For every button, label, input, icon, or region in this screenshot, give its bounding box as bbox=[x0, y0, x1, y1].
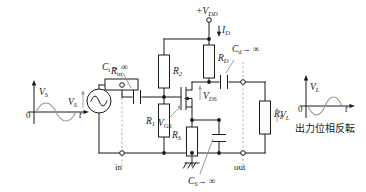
input-plot-origin-label: 0 bbox=[26, 110, 31, 120]
vs-arrowhead bbox=[81, 90, 85, 95]
ground-hatch-2 bbox=[188, 163, 191, 168]
junction-gate bbox=[162, 95, 166, 99]
output-plot-y-label: VL bbox=[310, 82, 320, 93]
junction-bottom-r1 bbox=[162, 151, 166, 155]
vgs-leader-shaft bbox=[170, 107, 180, 117]
junction-supply-rail bbox=[207, 37, 211, 41]
output-plot-y-arrowhead bbox=[304, 75, 308, 81]
rs-label: RS bbox=[171, 130, 182, 141]
output-plot-origin-label: 0 bbox=[298, 104, 303, 114]
r1-label: R1 bbox=[145, 116, 155, 127]
capacitor-cd bbox=[221, 75, 228, 89]
resistor-r2 bbox=[159, 55, 170, 88]
circuit-diagram-figure: VS 0 t bbox=[0, 0, 366, 192]
in-terminal-top bbox=[120, 83, 125, 88]
resistor-rl bbox=[260, 101, 271, 134]
vl-load-label: VL bbox=[280, 110, 290, 121]
output-plot-x-label: t bbox=[345, 104, 348, 114]
mosfet-transistor bbox=[181, 87, 192, 110]
vds-arrowhead bbox=[198, 85, 201, 89]
ground-hatch-3 bbox=[193, 163, 196, 168]
cs-leader-line bbox=[200, 139, 213, 174]
capacitor-ci bbox=[134, 90, 141, 104]
ci-label: Ci→ ∞ bbox=[102, 62, 128, 73]
resistor-rd bbox=[204, 45, 215, 78]
junction-source bbox=[190, 118, 194, 122]
ground-symbol bbox=[184, 163, 200, 168]
cd-label: Cd→ ∞ bbox=[232, 44, 259, 55]
capacitor-cs bbox=[212, 135, 226, 142]
input-plot-y-label: VS bbox=[39, 87, 49, 98]
out-terminal-bottom bbox=[241, 151, 246, 156]
vdd-terminal bbox=[207, 18, 212, 23]
junction-cs-top bbox=[217, 118, 221, 122]
vds-label: VDS bbox=[203, 91, 218, 102]
cs-label: CS→ ∞ bbox=[188, 176, 215, 187]
vdd-label: +VDD bbox=[196, 6, 218, 17]
output-waveform-plot: VL 0 t 出力位相反転 bbox=[295, 75, 355, 134]
ground-hatch-1 bbox=[184, 163, 187, 168]
in-terminal-label: in bbox=[115, 162, 123, 172]
drain-current-indicator: ID bbox=[217, 25, 230, 37]
output-phase-inversion-caption: 出力位相反転 bbox=[295, 122, 355, 134]
vds-indicator: VDS bbox=[198, 85, 217, 102]
junction-bottom-rs bbox=[190, 151, 194, 155]
in-terminal-bottom bbox=[120, 151, 125, 156]
junction-bottom-cs bbox=[217, 151, 221, 155]
circuit-wiring bbox=[99, 22, 265, 166]
vs-voltage-indicator: VS bbox=[68, 90, 85, 108]
schematic-canvas: VS 0 t bbox=[0, 0, 366, 192]
input-plot-x-label: t bbox=[79, 110, 82, 120]
output-plot-x-arrowhead bbox=[350, 104, 356, 108]
input-plot-y-arrowhead bbox=[32, 80, 36, 86]
id-arrowhead bbox=[217, 32, 221, 37]
out-terminal-label: out bbox=[234, 162, 246, 172]
id-label: ID bbox=[221, 25, 230, 36]
junction-drain bbox=[207, 80, 211, 84]
ac-voltage-source bbox=[87, 89, 111, 113]
input-waveform-plot: VS 0 t bbox=[26, 80, 89, 124]
r2-label: R2 bbox=[172, 66, 183, 77]
rd-label: RD bbox=[217, 53, 229, 64]
input-plot-x-arrowhead bbox=[84, 110, 90, 114]
out-terminal-top bbox=[241, 80, 246, 85]
vs-source-label: VS bbox=[68, 97, 78, 108]
